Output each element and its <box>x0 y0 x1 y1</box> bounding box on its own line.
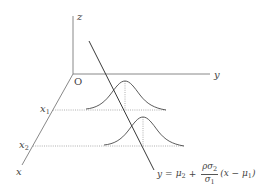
numerator-symbols: ρσ <box>202 161 213 171</box>
x1-subscript: 1 <box>46 108 50 116</box>
y-axis-label: y <box>214 70 220 80</box>
x-axis <box>22 74 73 165</box>
tail-close: ) <box>252 168 256 178</box>
x-axis-label: x <box>16 167 22 177</box>
diagram-canvas: z y O x x1 x2 y = μ2 + ρσ2 σ1 (x − μ1) <box>0 0 266 188</box>
formula-tail: (x − μ1) <box>220 169 255 180</box>
numerator-subscript: 2 <box>213 165 217 173</box>
x2-tick-label: x2 <box>19 140 29 152</box>
x1-tick-label: x1 <box>40 104 50 116</box>
formula-mu2: μ2 <box>176 169 186 180</box>
fraction-numerator: ρσ2 <box>201 162 218 174</box>
fraction-denominator: σ1 <box>205 175 215 187</box>
bell-curve-x2 <box>104 117 184 146</box>
diagram-svg <box>0 0 266 188</box>
tail-open: (x − μ <box>220 168 248 178</box>
z-axis-label: z <box>77 12 82 22</box>
mu2-subscript: 2 <box>182 172 186 180</box>
formula-lhs: y <box>157 170 162 179</box>
x2-subscript: 2 <box>25 144 29 152</box>
origin-label: O <box>74 77 82 87</box>
denominator-subscript: 1 <box>211 178 215 186</box>
bell-curve-x1 <box>86 81 166 110</box>
regression-formula: y = μ2 + ρσ2 σ1 (x − μ1) <box>157 162 256 187</box>
formula-equals: = <box>165 170 173 179</box>
formula-fraction: ρσ2 σ1 <box>201 162 218 187</box>
formula-plus: + <box>189 170 197 179</box>
